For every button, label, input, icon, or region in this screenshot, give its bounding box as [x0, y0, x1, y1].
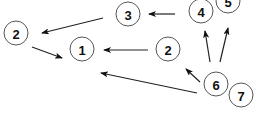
edge-n2a-to-n1 [32, 47, 62, 58]
node-n3: 3 [116, 2, 140, 26]
edge-n6-to-n5 [220, 28, 228, 62]
node-label: 4 [197, 5, 205, 20]
node-label: 5 [224, 0, 231, 10]
edge-n6-to-n1 [101, 73, 197, 93]
node-n6: 6 [204, 72, 228, 96]
node-n1: 1 [70, 37, 94, 61]
node-n2b: 2 [156, 37, 180, 61]
node-label: 3 [124, 8, 131, 23]
node-label: 2 [12, 27, 19, 42]
nodes-layer: 32145267 [4, 0, 253, 107]
node-n7: 7 [229, 83, 253, 107]
node-label: 6 [212, 78, 219, 93]
edge-n6-to-n4 [205, 31, 210, 62]
node-n4: 4 [189, 0, 213, 23]
edge-n3-to-n2a [42, 18, 103, 33]
node-label: 2 [164, 43, 171, 58]
node-n5: 5 [216, 0, 240, 13]
edge-n6-to-n2b [186, 69, 200, 82]
node-n2a: 2 [4, 21, 28, 45]
node-label: 1 [78, 43, 85, 58]
directed-graph: 32145267 [0, 0, 261, 117]
node-label: 7 [237, 89, 244, 104]
